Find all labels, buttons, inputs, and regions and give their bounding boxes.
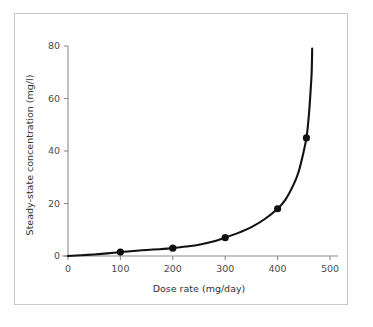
data-point-marker [169, 245, 176, 252]
data-point-marker [303, 134, 310, 141]
data-point-marker [222, 234, 229, 241]
chart-canvas: 020406080 0100200300400500 Dose rate (mg… [0, 0, 373, 327]
x-axis-title: Dose rate (mg/day) [153, 283, 246, 294]
figure-root: 020406080 0100200300400500 Dose rate (mg… [0, 0, 373, 327]
x-axis-tick-label: 400 [269, 263, 287, 274]
data-point-markers [117, 134, 310, 255]
data-point-marker [117, 248, 124, 255]
y-axis-tick-label: 40 [48, 145, 60, 156]
y-axis-title: Steady-state concentration (mg/l) [24, 75, 35, 236]
data-series-curve [68, 49, 312, 256]
x-axis-ticks: 0100200300400500 [65, 256, 339, 274]
y-axis-tick-label: 20 [48, 198, 60, 209]
x-axis-tick-label: 100 [111, 263, 129, 274]
x-axis-tick-label: 300 [216, 263, 234, 274]
data-point-marker [274, 205, 281, 212]
x-axis-tick-label: 200 [164, 263, 182, 274]
y-axis-ticks: 020406080 [48, 40, 68, 261]
y-axis-tick-label: 60 [48, 93, 60, 104]
y-axis-tick-label: 0 [54, 250, 60, 261]
x-axis-tick-label: 500 [321, 263, 339, 274]
x-axis-tick-label: 0 [65, 263, 71, 274]
y-axis-tick-label: 80 [48, 40, 60, 51]
